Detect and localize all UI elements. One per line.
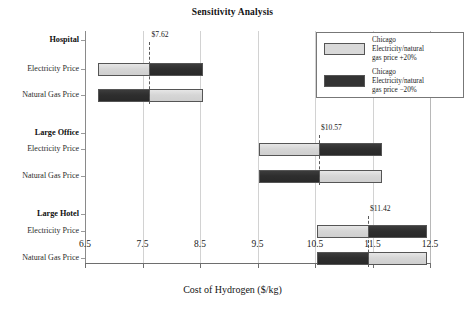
y-tick bbox=[81, 214, 85, 215]
y-group-label-large-office: Large Office bbox=[0, 128, 79, 137]
x-tick bbox=[315, 264, 316, 268]
x-tick-label: 9.5 bbox=[236, 239, 280, 249]
y-row-label-natural-gas-price: Natural Gas Price bbox=[0, 253, 79, 262]
x-tick-label: 11.5 bbox=[351, 239, 395, 249]
chart-legend: Chicago Electricity/natural gas price +2… bbox=[316, 32, 464, 98]
x-axis-title: Cost of Hydrogen ($/kg) bbox=[0, 284, 465, 295]
legend-label: Chicago Electricity/natural gas price −2… bbox=[372, 68, 424, 96]
bar-segment-high bbox=[319, 144, 381, 155]
y-group-label-large-hotel: Large Hotel bbox=[0, 209, 79, 218]
y-tick bbox=[81, 69, 85, 70]
bar-segment-low bbox=[318, 226, 368, 237]
bar-segment-high bbox=[319, 171, 381, 182]
bar-segment-low bbox=[99, 90, 149, 101]
x-tick-label: 10.5 bbox=[293, 239, 337, 249]
bar-segment-low bbox=[318, 253, 368, 264]
base-case-label: $10.57 bbox=[321, 123, 342, 132]
bar-hospital-natural-gas-price bbox=[98, 89, 203, 102]
y-tick bbox=[81, 231, 85, 232]
y-tick bbox=[81, 133, 85, 134]
x-tick bbox=[143, 264, 144, 268]
y-tick bbox=[81, 149, 85, 150]
legend-label: Chicago Electricity/natural gas price +2… bbox=[372, 36, 424, 64]
legend-item-2: Chicago Electricity/natural gas price −2… bbox=[324, 68, 424, 96]
sensitivity-analysis-chart: Sensitivity Analysis HospitalElectricity… bbox=[0, 0, 465, 310]
bar-segment-high bbox=[149, 64, 201, 75]
bar-segment-high bbox=[368, 226, 426, 237]
y-tick bbox=[81, 95, 85, 96]
x-tick-label: 7.5 bbox=[121, 239, 165, 249]
y-row-label-electricity-price: Electricity Price bbox=[0, 226, 79, 235]
x-tick bbox=[373, 264, 374, 268]
bar-large-hotel-natural-gas-price bbox=[317, 252, 427, 265]
x-tick bbox=[430, 264, 431, 268]
legend-item-1: Chicago Electricity/natural gas price +2… bbox=[324, 36, 424, 64]
bar-segment-low bbox=[260, 144, 319, 155]
base-case-line bbox=[319, 135, 320, 185]
bar-large-hotel-electricity-price bbox=[317, 225, 427, 238]
chart-title: Sensitivity Analysis bbox=[0, 7, 465, 17]
y-row-label-electricity-price: Electricity Price bbox=[0, 144, 79, 153]
y-tick bbox=[81, 176, 85, 177]
y-row-label-electricity-price: Electricity Price bbox=[0, 64, 79, 73]
x-tick-label: 8.5 bbox=[178, 239, 222, 249]
bar-hospital-electricity-price bbox=[98, 63, 203, 76]
bar-segment-high bbox=[368, 253, 426, 264]
legend-swatch bbox=[324, 75, 365, 87]
y-tick bbox=[81, 258, 85, 259]
y-row-label-natural-gas-price: Natural Gas Price bbox=[0, 90, 79, 99]
y-axis-line bbox=[85, 31, 86, 264]
y-tick bbox=[81, 40, 85, 41]
base-case-line bbox=[149, 42, 150, 104]
bar-large-office-electricity-price bbox=[259, 143, 381, 156]
bar-large-office-natural-gas-price bbox=[259, 170, 381, 183]
bar-segment-high bbox=[149, 90, 201, 101]
x-tick-label: 6.5 bbox=[63, 239, 107, 249]
bar-segment-low bbox=[99, 64, 149, 75]
base-case-label: $7.62 bbox=[151, 30, 168, 39]
x-tick bbox=[85, 264, 86, 268]
x-tick-label: 12.5 bbox=[408, 239, 452, 249]
bar-segment-low bbox=[260, 171, 319, 182]
x-tick bbox=[258, 264, 259, 268]
legend-swatch bbox=[324, 43, 365, 55]
x-tick bbox=[200, 264, 201, 268]
y-group-label-hospital: Hospital bbox=[0, 35, 79, 44]
base-case-label: $11.42 bbox=[370, 204, 391, 213]
y-row-label-natural-gas-price: Natural Gas Price bbox=[0, 171, 79, 180]
